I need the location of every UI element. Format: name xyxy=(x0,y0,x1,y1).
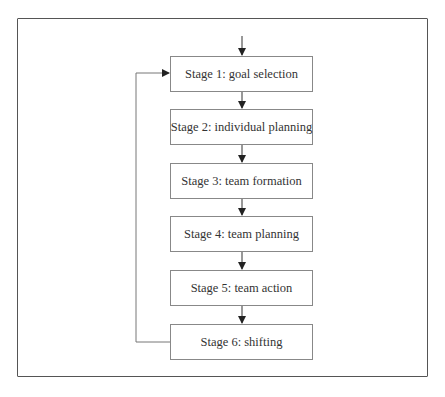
stage-5-box: Stage 5: team action xyxy=(170,270,313,306)
stage-4-box: Stage 4: team planning xyxy=(170,216,313,252)
stage-5-label: Stage 5: team action xyxy=(191,281,293,296)
stage-3-box: Stage 3: team formation xyxy=(170,163,313,199)
stage-3-label: Stage 3: team formation xyxy=(181,174,301,189)
stage-2-box: Stage 2: individual planning xyxy=(170,109,313,145)
stage-1-label: Stage 1: goal selection xyxy=(185,67,298,82)
stage-6-label: Stage 6: shifting xyxy=(201,335,283,350)
feedback-loop-arrow xyxy=(136,73,170,342)
stage-4-label: Stage 4: team planning xyxy=(184,227,299,242)
stage-6-box: Stage 6: shifting xyxy=(170,324,313,360)
stage-2-label: Stage 2: individual planning xyxy=(171,120,312,135)
stage-1-box: Stage 1: goal selection xyxy=(170,56,313,92)
